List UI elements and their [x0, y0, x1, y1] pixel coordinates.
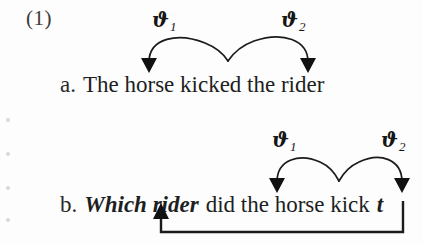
theta-label-a2: ϑ2	[281, 10, 305, 33]
theta-arc-a1	[149, 38, 228, 62]
theta-glyph: ϑ	[381, 128, 398, 152]
theta-arc-b1	[277, 158, 339, 182]
scan-speckle	[6, 118, 10, 122]
theta-arc-a2	[228, 37, 308, 62]
trace-symbol: t	[377, 192, 383, 217]
example-line-b: b.Which riderdid the horse kickt	[60, 193, 383, 216]
theta-label-b1: ϑ1	[272, 130, 296, 153]
theta-label-b2: ϑ2	[381, 130, 405, 153]
scan-speckle	[6, 152, 10, 156]
wh-phrase: Which rider	[84, 192, 198, 217]
theta-arrowhead-b1	[269, 178, 285, 193]
theta-glyph: ϑ	[281, 8, 298, 32]
line-b-middle: did the horse kick	[206, 192, 370, 217]
scan-speckle	[6, 186, 10, 190]
theta-subscript: 2	[398, 139, 406, 154]
figure-canvas: (1) ϑ1 ϑ2 a.The horse kicked the rider ϑ…	[0, 0, 423, 245]
line-a-tag: a.	[60, 72, 76, 97]
scan-speckle	[6, 218, 10, 222]
theta-subscript: 1	[169, 19, 177, 34]
theta-subscript: 1	[289, 139, 297, 154]
theta-arrowhead-a1	[141, 58, 157, 73]
theta-glyph: ϑ	[152, 8, 169, 32]
example-line-a: a.The horse kicked the rider	[60, 73, 324, 96]
line-a-text: The horse kicked the rider	[83, 72, 324, 97]
theta-glyph: ϑ	[272, 128, 289, 152]
theta-arc-b2	[339, 158, 402, 182]
line-b-tag: b.	[60, 192, 77, 217]
theta-arrowhead-b2	[394, 178, 410, 193]
example-number: (1)	[26, 8, 52, 29]
theta-subscript: 2	[298, 19, 306, 34]
theta-arrowhead-a2	[300, 58, 316, 73]
theta-label-a1: ϑ1	[152, 10, 176, 33]
